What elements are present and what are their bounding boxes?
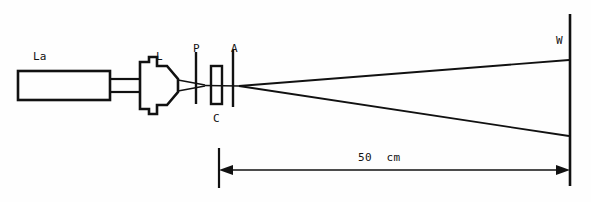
optical-diagram: La L P C A W 50 cm <box>0 0 591 202</box>
label-lens: L <box>156 51 163 62</box>
dimension-arrow-left-icon <box>219 165 233 175</box>
dimension-arrow-right-icon <box>556 165 570 175</box>
lens-housing <box>140 57 178 114</box>
label-wall: W <box>556 35 563 46</box>
beam-ray-upper <box>239 60 569 86</box>
beam-ray-lower <box>239 86 569 136</box>
diagram-canvas <box>0 0 591 202</box>
label-cell: C <box>213 113 220 124</box>
laser-body <box>18 71 110 100</box>
label-laser: La <box>33 51 47 62</box>
label-polarizer: P <box>193 43 200 54</box>
label-analyzer: A <box>231 43 238 54</box>
dimension-label: 50 cm <box>358 152 401 163</box>
beam-waist-top <box>178 80 205 85</box>
beam-axis-segment <box>205 86 240 87</box>
beam-waist-bottom <box>178 86 205 91</box>
